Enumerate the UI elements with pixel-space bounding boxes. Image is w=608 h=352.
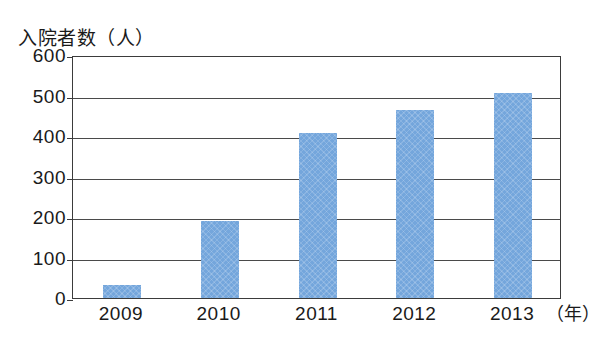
y-axis-tick-label: 400 — [4, 127, 66, 146]
x-axis-tick-label: 2013 — [467, 303, 557, 325]
x-axis-tick-label: 2009 — [76, 303, 166, 325]
x-axis-tick-label: 2010 — [174, 303, 264, 325]
y-axis-tick-label: 600 — [4, 46, 66, 65]
y-axis-tick-labels: 0100200300400500600 — [0, 0, 608, 352]
x-axis-tick-label: 2012 — [369, 303, 459, 325]
x-axis-tick-labels: （年） 20092010201120122013 — [0, 303, 608, 343]
y-axis-tick-label: 500 — [4, 87, 66, 106]
y-axis-tick-label: 300 — [4, 168, 66, 187]
x-axis-tick-label: 2011 — [272, 303, 362, 325]
y-axis-tick-label: 200 — [4, 208, 66, 227]
y-axis-tick-label: 100 — [4, 249, 66, 268]
bar-chart: 入院者数（人） 0100200300400500600 （年） 20092010… — [0, 0, 608, 352]
